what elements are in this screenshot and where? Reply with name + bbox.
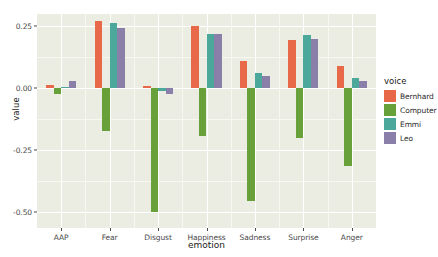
legend-label: Bernhard <box>400 92 434 101</box>
legend-title: voice <box>384 76 438 86</box>
x-axis-title: emotion <box>37 240 376 250</box>
legend-label: Leo <box>400 134 413 143</box>
bar-fear-emmi <box>110 23 118 88</box>
x-tick-mark <box>352 228 353 231</box>
bar-happiness-bernhard <box>191 26 199 88</box>
bar-disgust-leo <box>166 88 174 94</box>
bar-fear-leo <box>117 28 125 89</box>
gridline-vertical <box>255 14 256 228</box>
bar-aap-bernhard <box>46 85 54 88</box>
y-tick-label: 0.00 <box>16 84 32 93</box>
x-tick-mark <box>158 228 159 231</box>
legend-swatch-icon <box>384 104 396 116</box>
bar-aap-leo <box>69 81 77 88</box>
bar-happiness-leo <box>214 34 222 88</box>
y-tick-label: -0.50 <box>13 207 32 216</box>
bar-fear-bernhard <box>95 21 103 88</box>
legend-swatch-icon <box>384 90 396 102</box>
x-tick-mark <box>255 228 256 231</box>
bar-happiness-computer <box>199 88 207 136</box>
x-tick-mark <box>61 228 62 231</box>
bar-disgust-emmi <box>158 88 166 91</box>
legend-item-computer[interactable]: Computer <box>384 104 438 116</box>
x-tick-mark <box>303 228 304 231</box>
bar-surprise-bernhard <box>288 40 296 88</box>
x-tick-mark <box>207 228 208 231</box>
bar-surprise-computer <box>296 88 304 137</box>
bar-sadness-bernhard <box>240 61 248 88</box>
legend-item-emmi[interactable]: Emmi <box>384 118 438 130</box>
gridline-vertical-minor <box>85 14 86 228</box>
gridline-vertical <box>158 14 159 228</box>
bar-surprise-emmi <box>303 35 311 88</box>
bar-disgust-computer <box>151 88 159 212</box>
legend-label: Emmi <box>400 120 421 129</box>
bar-surprise-leo <box>311 39 319 88</box>
bar-sadness-emmi <box>255 73 263 88</box>
legend-swatch-icon <box>384 132 396 144</box>
legend-swatch-icon <box>384 118 396 130</box>
bar-disgust-bernhard <box>143 86 151 88</box>
x-tick-mark <box>110 228 111 231</box>
bar-aap-computer <box>54 88 62 93</box>
bar-happiness-emmi <box>207 34 215 88</box>
y-tick-label: -0.25 <box>13 146 32 155</box>
plot-panel <box>37 14 376 228</box>
bar-anger-emmi <box>352 78 360 88</box>
bar-anger-bernhard <box>337 66 345 88</box>
bar-aap-emmi <box>61 87 69 88</box>
legend: voice BernhardComputerEmmiLeo <box>384 76 438 146</box>
gridline-vertical-minor <box>328 14 329 228</box>
gridline-vertical-minor <box>134 14 135 228</box>
gridline-vertical-minor <box>279 14 280 228</box>
bar-anger-computer <box>344 88 352 166</box>
gridline-vertical-minor <box>231 14 232 228</box>
y-axis: 0.250.00-0.25-0.50 <box>0 0 38 257</box>
legend-label: Computer <box>400 106 436 115</box>
gridline-vertical-minor <box>182 14 183 228</box>
bar-fear-computer <box>102 88 110 131</box>
bar-sadness-computer <box>247 88 255 201</box>
gridline-vertical <box>352 14 353 228</box>
bar-anger-leo <box>359 81 367 88</box>
y-tick-label: 0.25 <box>16 22 32 31</box>
gridline-vertical <box>61 14 62 228</box>
legend-item-bernhard[interactable]: Bernhard <box>384 90 438 102</box>
bar-sadness-leo <box>262 76 270 88</box>
legend-item-leo[interactable]: Leo <box>384 132 438 144</box>
bar-chart: value 0.250.00-0.25-0.50 AAPFearDisgustH… <box>0 0 438 257</box>
